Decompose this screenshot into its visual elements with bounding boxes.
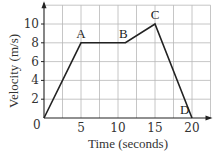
- y-axis-arrow-icon: [42, 1, 47, 8]
- y-tick-label: 6: [31, 55, 39, 69]
- x-tick-labels: 5101520: [77, 121, 199, 135]
- point-labels: ABCD: [76, 7, 189, 117]
- velocity-time-chart: 246810 5101520 0 ABCD Time (seconds) Vel…: [0, 0, 217, 154]
- y-tick-label: 10: [24, 17, 39, 31]
- y-tick-label: 4: [31, 73, 39, 87]
- x-axis-arrow-icon: [206, 116, 213, 121]
- point-label-a: A: [76, 26, 86, 41]
- point-label-b: B: [119, 26, 128, 41]
- x-axis-label: Time (seconds): [88, 136, 168, 151]
- point-label-c: C: [151, 7, 160, 22]
- y-axis-label: Velocity (m/s): [6, 34, 21, 108]
- y-tick-labels: 246810: [24, 17, 44, 106]
- x-tick-label: 20: [184, 121, 199, 135]
- x-tick-label: 10: [110, 121, 125, 135]
- y-tick-label: 2: [31, 92, 39, 106]
- origin-label: 0: [33, 118, 41, 132]
- y-tick-label: 8: [31, 36, 39, 50]
- x-tick-label: 15: [147, 121, 162, 135]
- point-label-d: D: [180, 102, 189, 117]
- x-tick-label: 5: [77, 121, 85, 135]
